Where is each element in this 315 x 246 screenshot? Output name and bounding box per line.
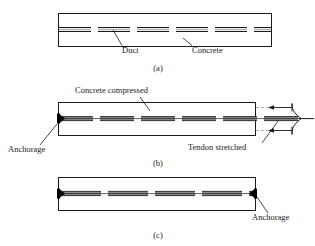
leader-line-anchorage-c xyxy=(257,197,268,213)
label-tendon-stretched: Tendon stretched xyxy=(188,143,246,152)
post-tensioning-figure xyxy=(0,0,315,246)
leader-line-anchorage-b xyxy=(40,124,57,145)
label-anchorage-c: Anchorage xyxy=(252,213,289,222)
label-anchorage-b: Anchorage xyxy=(8,145,45,154)
panel-b xyxy=(40,97,314,145)
caption-panel-a: (a) xyxy=(143,64,173,73)
tendon-c xyxy=(61,191,254,195)
panel-c xyxy=(57,178,268,214)
caption-panel-c: (c) xyxy=(143,231,173,240)
label-concrete: Concrete xyxy=(192,46,223,55)
caption-panel-b: (b) xyxy=(143,159,173,168)
force-arrow-icon-bottom-b xyxy=(268,127,292,135)
panel-a xyxy=(59,14,272,47)
label-concrete-compressed: Concrete compressed xyxy=(75,86,148,95)
force-arrow-icon-top-b xyxy=(268,104,292,112)
label-duct: Duct xyxy=(122,46,139,55)
leader-line-tendon-stretched-b xyxy=(262,121,278,143)
